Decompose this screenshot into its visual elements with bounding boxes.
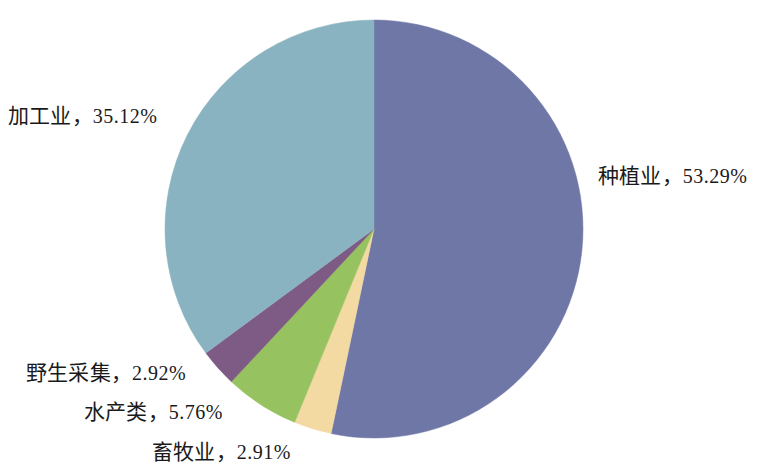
pie-label-yesheng-caiji: 野生采集，2.92%: [26, 362, 186, 385]
pie-label-shuichanlei: 水产类，5.76%: [84, 401, 223, 424]
pie-label-xumuye: 畜牧业，2.91%: [152, 441, 291, 464]
pie-label-xumuye-name: 畜牧业: [152, 440, 216, 464]
pie-label-jiagongye-value: 35.12%: [93, 105, 158, 127]
pie-label-zhongzhiye-name: 种植业: [598, 164, 662, 188]
pie-label-jiagongye-name: 加工业: [8, 104, 72, 128]
pie-slice-group: [165, 20, 583, 438]
pie-label-shuichanlei-separator: ，: [148, 400, 169, 424]
pie-label-zhongzhiye-value: 53.29%: [683, 165, 748, 187]
pie-label-xumuye-value: 2.91%: [237, 441, 291, 463]
pie-label-shuichanlei-value: 5.76%: [169, 401, 223, 423]
pie-chart: 种植业，53.29% 加工业，35.12% 野生采集，2.92% 水产类，5.7…: [0, 0, 767, 470]
pie-label-yesheng-caiji-value: 2.92%: [132, 362, 186, 384]
pie-label-jiagongye-separator: ，: [72, 104, 93, 128]
pie-label-xumuye-separator: ，: [216, 440, 237, 464]
pie-label-zhongzhiye: 种植业，53.29%: [598, 165, 747, 188]
pie-label-yesheng-caiji-separator: ，: [111, 361, 132, 385]
pie-label-zhongzhiye-separator: ，: [662, 164, 683, 188]
pie-label-shuichanlei-name: 水产类: [84, 400, 148, 424]
pie-label-yesheng-caiji-name: 野生采集: [26, 361, 111, 385]
pie-label-jiagongye: 加工业，35.12%: [8, 105, 157, 128]
